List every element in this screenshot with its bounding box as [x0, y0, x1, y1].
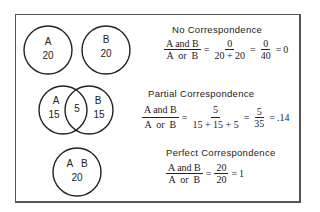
value-a: 15 — [48, 109, 60, 120]
label-b: B — [103, 34, 110, 45]
label-ab: A B — [66, 158, 87, 169]
equation-perfect: A and BA or B = 2020 = 1 — [165, 162, 244, 185]
value-b: 20 — [100, 48, 112, 59]
label-b: B — [95, 95, 102, 106]
equation-no: A and BA or B = 020 + 20 = 040 = 0 — [163, 38, 288, 61]
value-b: 15 — [93, 109, 105, 120]
title-no-correspondence: No Correspondence — [172, 24, 262, 35]
circle-b-partial — [65, 86, 113, 134]
label-a: A — [45, 36, 52, 47]
equation-partial: A and BA or B = 515 + 15 + 5 = 535 = .14 — [141, 103, 289, 132]
value-a: 20 — [42, 50, 54, 61]
value-ab: 20 — [71, 172, 83, 183]
overlap-value: 5 — [74, 103, 80, 114]
circle-a-partial — [39, 86, 87, 134]
title-perfect-correspondence: Perfect Correspondence — [166, 147, 276, 158]
title-partial-correspondence: Partial Correspondence — [148, 88, 254, 99]
label-a: A — [53, 95, 60, 106]
